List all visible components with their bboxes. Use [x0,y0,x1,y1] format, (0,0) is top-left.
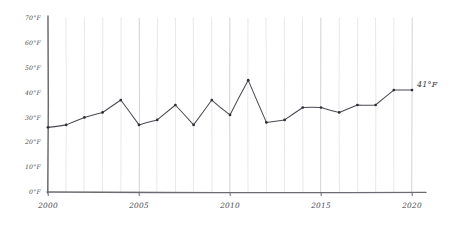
gridline-2006 [157,18,158,192]
x-tick-label-2005: 2005 [128,201,149,210]
x-tick-label-2015: 2015 [310,201,331,210]
data-point-2013 [283,119,286,122]
y-tick-label-20: 20°F [24,138,42,145]
data-point-2010 [229,114,232,117]
x-tick-label-2020: 2020 [401,201,422,210]
data-point-2004 [119,99,122,102]
temperature-line-chart: 0°F10°F20°F30°F40°F50°F60°F70°F 20002005… [0,0,456,230]
y-tick-label-10: 10°F [25,163,42,170]
data-point-2012 [265,121,268,124]
data-point-2000 [47,126,50,129]
data-point-2007 [174,104,177,107]
data-point-2006 [156,119,159,122]
data-point-2001 [65,124,68,127]
data-point-2014 [301,106,304,109]
y-tick-label-50: 50°F [25,64,42,71]
data-point-2015 [320,106,323,109]
y-axis-tick-labels: 0°F10°F20°F30°F40°F50°F60°F70°F [24,14,42,195]
x-axis-line [47,192,426,193]
y-axis-line [48,16,49,193]
axes [47,16,426,193]
data-point-2011 [247,79,250,82]
x-axis-tick-labels: 20002005201020152020 [37,192,422,210]
y-tick-label-60: 60°F [25,39,42,46]
data-point-2005 [138,124,141,127]
data-point-2020 [411,89,414,92]
end-value-label: 41°F [416,80,438,89]
gridline-2020 [412,18,413,192]
data-point-2009 [210,99,213,102]
gridline-2014 [302,18,303,192]
data-point-2002 [83,116,86,119]
y-tick-label-0: 0°F [29,188,41,195]
x-tick-label-2010: 2010 [219,201,240,210]
data-point-2003 [101,111,104,114]
data-point-2016 [338,111,341,114]
y-tick-label-40: 40°F [24,89,42,96]
y-tick-label-70: 70°F [25,14,42,21]
data-point-2017 [356,104,359,107]
chart-annotations: 41°F [416,80,438,89]
y-tick-label-30: 30°F [25,114,42,121]
data-point-2019 [392,89,395,92]
data-point-2008 [192,124,195,127]
data-point-2018 [374,104,377,107]
chart-canvas: 0°F10°F20°F30°F40°F50°F60°F70°F 20002005… [0,0,456,230]
x-tick-label-2000: 2000 [37,201,58,210]
gridline-2002 [84,18,85,192]
